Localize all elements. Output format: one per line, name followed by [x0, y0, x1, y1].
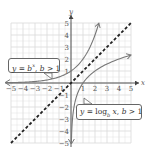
- x-tick-label: −3: [30, 85, 40, 93]
- y-axis-label: y: [68, 8, 74, 16]
- y-tick-label: 5: [65, 20, 69, 28]
- callout-log-condition: > 1: [126, 107, 142, 116]
- y-tick-label: −3: [59, 116, 69, 124]
- callout-log-x: x: [110, 107, 117, 116]
- x-tick-label: −4: [18, 85, 29, 93]
- log-function-callout: y = logb x, b > 1: [76, 104, 142, 120]
- y-tick-label: −2: [59, 104, 69, 112]
- y-tick-label: 4: [65, 32, 70, 40]
- x-axis-label: x: [141, 79, 145, 87]
- x-tick-label: 2: [93, 85, 97, 93]
- exp-function-callout: y = bx, b > 1: [8, 58, 60, 73]
- exp-callout-pointer: [44, 73, 52, 79]
- y-tick-label: 2: [65, 56, 69, 64]
- y-tick-label: −4: [59, 128, 70, 136]
- function-graph: xy −5−4−3−2−11234554321−1−2−3−4−5: [0, 0, 148, 152]
- x-tick-label: 5: [129, 85, 133, 93]
- x-tick-label: −2: [42, 85, 52, 93]
- x-tick-label: 4: [117, 85, 122, 93]
- x-tick-label: −5: [6, 85, 16, 93]
- y-tick-label: 3: [65, 44, 69, 52]
- callout-exp-equals: =: [16, 64, 27, 73]
- callout-log-equals: = log: [84, 107, 107, 116]
- x-tick-label: 3: [105, 85, 109, 93]
- callout-exp-condition: > 1: [45, 64, 61, 73]
- y-tick-label: −5: [59, 140, 69, 148]
